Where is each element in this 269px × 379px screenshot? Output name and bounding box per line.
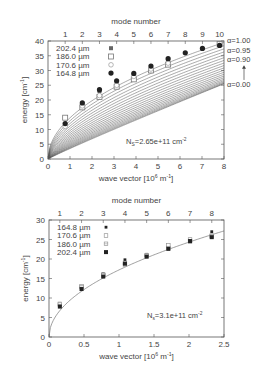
open-square-marker [63,115,68,120]
y-tick-label: 40 [35,37,44,46]
figure: 012345678051015202530354012345678910mode… [0,0,269,379]
filled-square-marker [104,250,108,254]
filled-circle-marker [131,71,136,76]
y-tick-label: 20 [35,96,44,105]
top-tick-label: 2 [80,30,85,39]
top-tick-label: 7 [188,209,193,218]
top-tick-label: 10 [215,30,224,39]
x-tick-label: 0 [47,340,52,349]
filled-square-marker [123,262,127,266]
y-tick-label: 5 [41,314,46,323]
plot-lower: 00.511.522.505101520253012345678mode num… [20,196,230,361]
x-tick-label: 8 [222,162,227,171]
small-filled-square-marker [210,230,213,233]
top-tick-label: 5 [132,30,137,39]
arrow-head-icon [242,65,246,69]
filled-circle-marker [108,71,113,76]
open-circle-marker [166,61,171,66]
filled-circle-marker [183,50,188,55]
y-tick-label: 10 [35,126,44,135]
x-tick-label: 0.5 [78,340,90,349]
top-tick-label: 9 [200,30,205,39]
filled-circle-marker [166,56,171,61]
y-tick-label: 25 [35,81,44,90]
legend: 202.4 µm186.0 µm170.6 µm164.8 µm [56,44,114,78]
dispersion-curve [48,84,224,159]
top-tick-label: 4 [114,30,119,39]
y-axis-label: energy [cm-1] [20,255,30,301]
y-tick-label: 15 [35,111,44,120]
x-tick-label: 4 [134,162,139,171]
open-circle-marker [97,93,102,98]
y-tick-label: 0 [41,333,46,342]
top-tick-label: 2 [79,209,84,218]
alpha-labels: α=1.00α=0.95α=0.90α=0.00 [227,36,250,89]
filled-circle-marker [148,63,153,68]
top-tick-label: 3 [97,30,102,39]
small-open-square-marker [104,234,108,238]
y-tick-label: 35 [35,52,44,61]
x-tick-label: 7 [200,162,205,171]
x-tick-label: 1 [117,340,122,349]
y-tick-label: 5 [40,140,45,149]
top-tick-label: 7 [166,30,171,39]
top-tick-label: 5 [144,209,149,218]
small-filled-square-marker [105,226,108,229]
filled-circle-marker [200,46,205,51]
x-tick-label: 3 [112,162,117,171]
filled-circle-marker [80,100,85,105]
y-tick-label: 20 [36,255,45,264]
filled-square-marker [80,287,84,291]
y-tick-label: 15 [36,275,45,284]
filled-circle-marker [63,121,68,126]
x-tick-label: 0 [46,162,51,171]
y-axis-label: energy [cm-1] [19,77,29,123]
plot-upper: 012345678051015202530354012345678910mode… [19,17,251,183]
filled-circle-marker [217,43,222,48]
filled-square-marker [58,305,62,309]
filled-circle-marker [114,78,119,83]
density-annotation: NS=2.65e+11 cm-2 [126,137,187,147]
filled-circle-marker [97,87,102,92]
x-tick-label: 2.5 [218,340,230,349]
top-tick-label: 6 [149,30,154,39]
top-axis-label: mode number [111,17,161,26]
x-tick-label: 2 [187,340,192,349]
filled-square-marker [166,247,170,251]
alpha-label: α=0.00 [227,80,250,89]
top-tick-label: 8 [183,30,188,39]
top-tick-label: 3 [101,209,106,218]
legend: 164.8 µm170.6 µm186.0 µm202.4 µm [57,223,108,257]
top-tick-label: 4 [123,209,128,218]
y-tick-label: 25 [36,236,45,245]
top-tick-label: 6 [166,209,171,218]
y-tick-label: 0 [40,155,45,164]
x-tick-label: 1 [68,162,73,171]
x-tick-label: 5 [156,162,161,171]
alpha-label: α=0.95 [227,46,250,55]
open-circle-marker [109,63,114,68]
top-tick-label: 1 [63,30,68,39]
x-tick-label: 1.5 [148,340,160,349]
x-tick-label: 2 [90,162,95,171]
legend-label: 202.4 µm [57,248,91,257]
y-tick-label: 30 [36,216,45,225]
alpha-label: α=1.00 [227,36,250,45]
filled-square-marker [188,239,192,243]
y-tick-label: 10 [36,294,45,303]
open-square-marker [109,54,114,59]
top-axis-label: mode number [112,196,162,205]
open-circle-marker [114,83,119,88]
small-filled-square-marker [124,258,127,261]
filled-square-marker [101,275,105,279]
filled-square-marker [145,255,149,259]
x-tick-label: 6 [178,162,183,171]
asterisk-marker [109,46,113,50]
density-annotation: Ns=3.1e+11 cm-2 [147,311,203,321]
filled-square-marker [210,235,214,239]
x-axis-label: wave vector [106 m-1] [98,173,174,183]
alpha-label: α=0.90 [227,55,250,64]
top-tick-label: 8 [210,209,215,218]
top-tick-label: 1 [58,209,63,218]
x-axis-label: wave vector [106 m-1] [98,351,174,361]
